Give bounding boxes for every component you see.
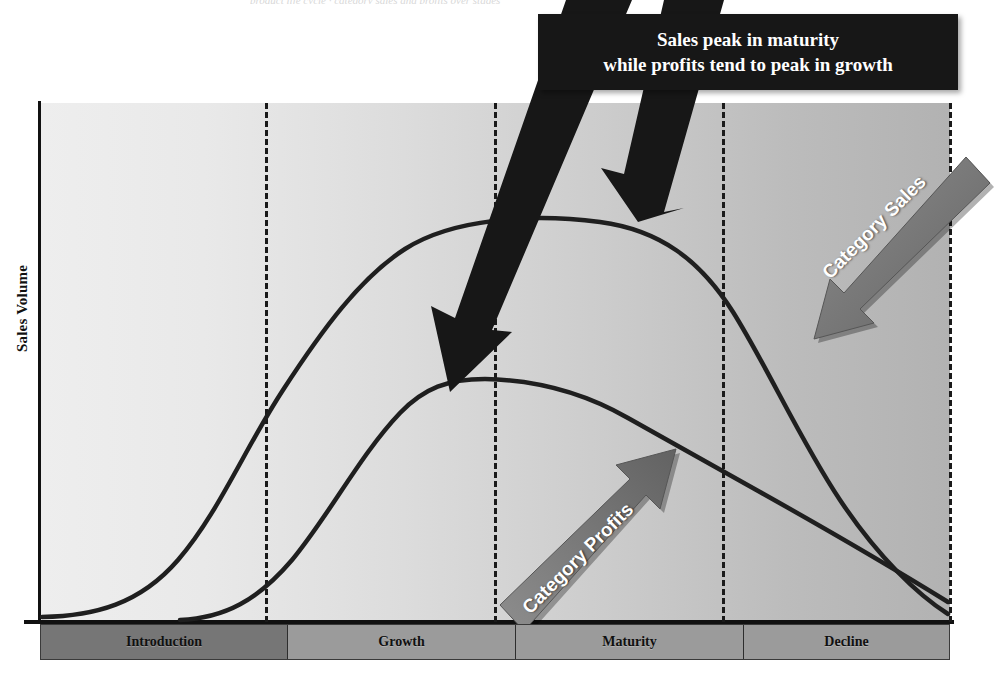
stage-label-decline: Decline	[824, 634, 868, 650]
stage-label-growth: Growth	[378, 634, 424, 650]
callout-line-2: while profits tend to peak in growth	[603, 52, 893, 77]
callout-line-1: Sales peak in maturity	[657, 27, 839, 52]
stage-label-maturity: Maturity	[602, 634, 656, 650]
stage-label-introduction: Introduction	[126, 634, 202, 650]
stage-cell-introduction[interactable]: Introduction	[41, 625, 288, 659]
stage-cell-maturity[interactable]: Maturity	[516, 625, 744, 659]
callout-box: Sales peak in maturity while profits ten…	[538, 14, 958, 90]
stage-cell-decline[interactable]: Decline	[744, 625, 949, 659]
stage-cell-growth[interactable]: Growth	[288, 625, 516, 659]
stage-label-bar: Introduction Growth Maturity Decline	[40, 624, 950, 660]
